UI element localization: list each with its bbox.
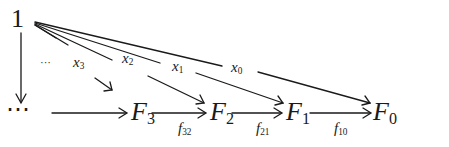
arrow-x3-seg2 xyxy=(95,78,112,90)
edge-label-f32: f32 xyxy=(178,121,191,138)
edge-label-f32-sub: 32 xyxy=(182,127,191,137)
node-F2-label: F xyxy=(210,97,226,126)
node-1-label: 1 xyxy=(11,4,24,33)
edge-label-x1-sub: 1 xyxy=(179,65,184,75)
node-F2-sub: 2 xyxy=(226,110,234,127)
edge-label-f10-sub: 10 xyxy=(338,127,347,137)
node-1: 1 xyxy=(11,6,24,32)
edge-label-x3: x3 xyxy=(73,55,84,72)
arrow-x0-seg2 xyxy=(258,72,370,103)
edge-label-x0: x0 xyxy=(231,60,242,77)
node-dots-label: ⋯ xyxy=(6,96,30,122)
edge-label-x0-sub: 0 xyxy=(238,66,243,76)
node-F0-label: F xyxy=(373,97,389,126)
edge-label-x3-main: x xyxy=(73,54,80,70)
node-F2: F2 xyxy=(210,99,234,127)
node-dots: ⋯ xyxy=(6,97,30,121)
node-F0: F0 xyxy=(373,99,397,127)
edge-label-f10: f10 xyxy=(334,121,347,138)
node-F3-label: F xyxy=(131,97,147,126)
node-F3-sub: 3 xyxy=(147,110,155,127)
node-F0-sub: 0 xyxy=(389,110,397,127)
edge-label-x0-main: x xyxy=(231,59,238,75)
arrow-x2-seg2 xyxy=(148,76,204,103)
arrow-x1-seg1 xyxy=(35,23,160,63)
node-F1-sub: 1 xyxy=(302,110,310,127)
edge-label-dots: ··· xyxy=(40,57,51,68)
node-F1: F1 xyxy=(286,99,310,127)
edge-label-x3-sub: 3 xyxy=(80,61,85,71)
node-F3: F3 xyxy=(131,99,155,127)
edge-label-x2-main: x xyxy=(122,50,129,66)
edge-label-f21: f21 xyxy=(256,121,269,138)
edge-label-x2-sub: 2 xyxy=(129,57,134,67)
edge-label-x1-main: x xyxy=(172,58,179,74)
edge-label-dots-text: ··· xyxy=(40,56,51,68)
node-F1-label: F xyxy=(286,97,302,126)
edge-label-x1: x1 xyxy=(172,59,183,76)
edge-label-f21-sub: 21 xyxy=(260,127,269,137)
edge-label-x2: x2 xyxy=(122,51,133,68)
